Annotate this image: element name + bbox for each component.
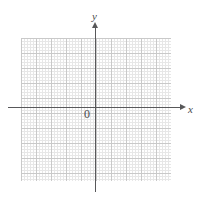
y-axis-label: y — [92, 11, 97, 22]
x-axis-label: x — [188, 104, 193, 115]
coordinate-plane-figure: y x 0 — [0, 0, 207, 201]
major-gridlines — [21, 38, 171, 181]
x-axis-arrow-icon — [180, 104, 186, 110]
y-axis-arrow-icon — [92, 22, 98, 28]
origin-label: 0 — [84, 108, 90, 120]
y-axis-line — [95, 26, 96, 192]
